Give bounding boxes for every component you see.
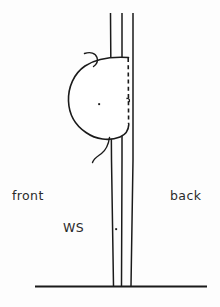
figure-svg (0, 0, 220, 307)
lower-curved-hook (93, 138, 110, 163)
label-ws: WS (63, 220, 84, 235)
label-back: back (170, 188, 201, 203)
post-line-middle (122, 13, 123, 286)
figure-canvas: front back WS (0, 0, 220, 307)
post-line-front (111, 13, 114, 286)
mass-center-dot (98, 103, 100, 105)
rounded-mass (68, 57, 128, 139)
post-line-back (131, 13, 133, 286)
label-front: front (12, 188, 44, 203)
vertical-post (111, 13, 134, 286)
post-marker-dot (115, 228, 117, 230)
